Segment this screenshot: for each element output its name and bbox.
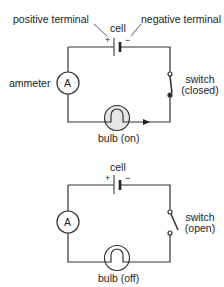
- ammeter-symbol-2: A: [64, 217, 71, 228]
- wire-top-right: [122, 185, 170, 210]
- cell-label-2: cell: [110, 162, 126, 173]
- minus-sign-2: −: [125, 173, 130, 184]
- bulb-off-icon: [105, 246, 130, 271]
- cell-icon: [114, 175, 122, 194]
- circuit-open-diagram: [0, 0, 224, 287]
- plus-sign-2: +: [105, 173, 110, 184]
- switch-label-line2: (open): [180, 223, 220, 234]
- bulb-off-label: bulb (off): [98, 273, 139, 284]
- switch-open-label: switch (open): [180, 212, 220, 234]
- switch-open-icon: [168, 210, 178, 235]
- wire-bottom-right: [129, 234, 170, 262]
